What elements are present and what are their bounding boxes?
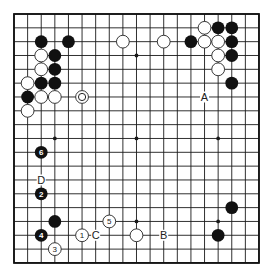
white-stone: [35, 49, 48, 62]
white-stone: [198, 21, 211, 34]
white-stone-icon: [212, 35, 225, 48]
move-number: 6: [39, 148, 44, 157]
white-stone-icon: [212, 49, 225, 62]
white-stone-icon: [21, 104, 34, 117]
point-label-c: C: [92, 229, 100, 241]
star-point: [135, 54, 139, 58]
black-stone: [35, 77, 48, 90]
white-stone: [116, 35, 129, 48]
star-point: [216, 137, 220, 141]
black-stone: [35, 35, 48, 48]
white-stone-icon: [35, 63, 48, 76]
black-stone: [48, 63, 61, 76]
black-stone-icon: [225, 201, 238, 214]
go-board: 624315 ABCD: [0, 0, 268, 276]
black-stone: [212, 229, 225, 242]
black-stone-icon: [225, 21, 238, 34]
black-stone-icon: [212, 21, 225, 34]
black-stone: [225, 201, 238, 214]
white-stone: [21, 104, 34, 117]
move-number: 1: [80, 231, 85, 240]
point-label-a: A: [201, 91, 209, 103]
white-stone: [198, 35, 211, 48]
move-number: 3: [53, 245, 58, 254]
white-stone-icon: [48, 91, 61, 104]
move-number: 2: [39, 190, 44, 199]
white-stone-move-5: 5: [103, 215, 116, 228]
black-stone: [48, 215, 61, 228]
white-stone-icon: [212, 63, 225, 76]
white-stone-icon: [130, 229, 143, 242]
black-stone: [225, 49, 238, 62]
black-stone-icon: [225, 77, 238, 90]
black-stone: [225, 35, 238, 48]
star-point: [135, 137, 139, 141]
go-board-diagram: 624315 ABCD: [0, 0, 268, 276]
black-stone: [21, 91, 34, 104]
black-stone-icon: [48, 215, 61, 228]
white-stone: [76, 91, 89, 104]
black-stone-icon: [35, 35, 48, 48]
white-stone: [35, 63, 48, 76]
black-stone-move-4: 4: [35, 229, 48, 242]
black-stone-move-6: 6: [35, 146, 48, 159]
move-number: 5: [107, 217, 112, 226]
white-stone-icon: [198, 21, 211, 34]
star-point: [53, 137, 57, 141]
white-stone-icon: [21, 77, 34, 90]
black-stone-icon: [225, 49, 238, 62]
star-point: [216, 220, 220, 224]
white-stone: [212, 49, 225, 62]
black-stone: [62, 35, 75, 48]
black-stone-move-2: 2: [35, 187, 48, 200]
black-stone-icon: [48, 49, 61, 62]
white-stone: [212, 63, 225, 76]
white-stone: [21, 77, 34, 90]
black-stone-icon: [225, 35, 238, 48]
white-stone-icon: [116, 35, 129, 48]
black-stone: [48, 77, 61, 90]
white-stone-icon: [76, 91, 89, 104]
white-stone: [212, 35, 225, 48]
point-label-b: B: [160, 229, 167, 241]
black-stone-icon: [62, 35, 75, 48]
white-stone-move-1: 1: [76, 229, 89, 242]
black-stone-icon: [21, 91, 34, 104]
black-stone-icon: [212, 229, 225, 242]
white-stone: [157, 35, 170, 48]
black-stone-icon: [48, 77, 61, 90]
black-stone: [185, 35, 198, 48]
star-point: [135, 220, 139, 224]
white-stone-icon: [35, 91, 48, 104]
move-number: 4: [39, 231, 44, 240]
white-stone-icon: [35, 49, 48, 62]
point-label-d: D: [37, 174, 45, 186]
white-stone-move-3: 3: [48, 243, 61, 256]
black-stone-icon: [48, 63, 61, 76]
black-stone: [48, 49, 61, 62]
white-stone-icon: [198, 35, 211, 48]
white-stone: [48, 91, 61, 104]
black-stone-icon: [185, 35, 198, 48]
black-stone: [225, 77, 238, 90]
white-stone: [130, 229, 143, 242]
black-stone: [212, 21, 225, 34]
black-stone-icon: [35, 77, 48, 90]
white-stone-icon: [157, 35, 170, 48]
white-stone: [35, 91, 48, 104]
black-stone: [225, 21, 238, 34]
